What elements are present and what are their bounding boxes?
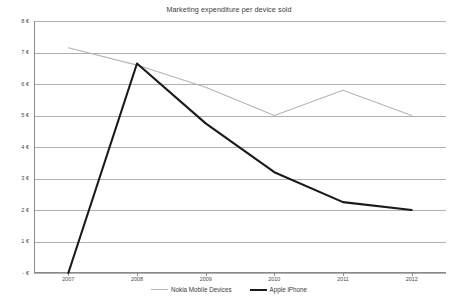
x-axis-tick-label: 2009 [186, 276, 226, 282]
y-axis-tick-label: 4 € [3, 144, 29, 150]
x-axis-tick-label: 2010 [254, 276, 294, 282]
series-lines [34, 21, 446, 273]
gridline [34, 273, 446, 274]
legend-line-icon [151, 289, 168, 290]
legend-item[interactable]: Apple iPhone [250, 286, 307, 293]
y-axis-tick-label: 1 € [3, 238, 29, 244]
chart-legend: Nokia Mobile DevicesApple iPhone [0, 286, 458, 293]
y-axis-tick-label: 3 € [3, 175, 29, 181]
y-axis-tick-label: - € [3, 270, 29, 276]
chart-container: Marketing expenditure per device sold 8 … [0, 0, 458, 302]
legend-line-icon [250, 289, 267, 291]
series-line [68, 64, 411, 273]
legend-item-label: Nokia Mobile Devices [171, 286, 232, 293]
x-axis-tick-label: 2011 [323, 276, 363, 282]
y-axis-tick-label: 7 € [3, 49, 29, 55]
y-axis-tick-label: 2 € [3, 207, 29, 213]
y-axis-tick-label: 5 € [3, 112, 29, 118]
y-axis-tick-label: 8 € [3, 18, 29, 24]
legend-item-label: Apple iPhone [270, 286, 307, 293]
x-axis-tick-label: 2012 [392, 276, 432, 282]
y-axis-tick-label: 6 € [3, 81, 29, 87]
x-axis-tick-label: 2007 [48, 276, 88, 282]
x-axis-tick-label: 2008 [117, 276, 157, 282]
legend-item[interactable]: Nokia Mobile Devices [151, 286, 232, 293]
chart-title: Marketing expenditure per device sold [0, 5, 458, 14]
series-line [68, 48, 411, 116]
